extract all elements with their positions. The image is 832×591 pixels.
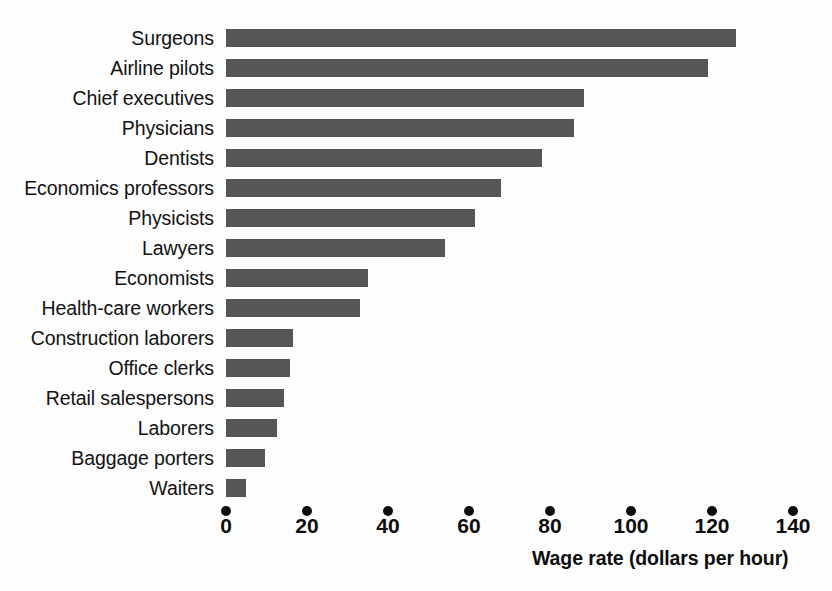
x-axis-tick-label: 120 [682,515,742,536]
x-axis-tick-label: 40 [358,515,418,536]
x-axis-tick-label: 20 [277,515,337,536]
x-axis-title: Wage rate (dollars per hour) [532,547,789,570]
x-axis: Wage rate (dollars per hour) 02040608010… [0,0,832,591]
x-axis-tick-label: 80 [520,515,580,536]
x-axis-tick-label: 140 [763,515,823,536]
x-axis-tick-label: 60 [439,515,499,536]
x-axis-tick-label: 100 [601,515,661,536]
x-axis-tick-label: 0 [196,515,256,536]
wage-rate-bar-chart: SurgeonsAirline pilotsChief executivesPh… [0,0,832,591]
